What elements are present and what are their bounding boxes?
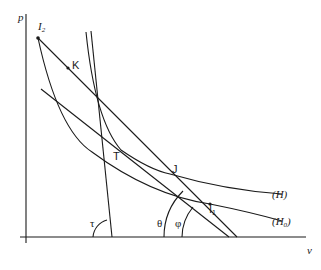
point-k (66, 66, 69, 69)
tau-line (91, 31, 112, 237)
point-k-label: K (72, 59, 80, 71)
angle-tau-label: τ (90, 217, 95, 229)
hugoniot-curve-h (86, 32, 282, 194)
phi-arc (182, 207, 193, 237)
angle-theta-label: θ (157, 217, 162, 229)
point-i2 (36, 36, 40, 40)
p-axis-label: p (17, 11, 24, 23)
point-t-label: T (113, 150, 120, 162)
rayleigh-line-t-i1 (41, 89, 229, 237)
point-i2-label: I2 (37, 20, 46, 34)
curve-h0-label: (H0) (272, 215, 291, 229)
v-axis-label: v (307, 244, 312, 256)
point-j-label: J (172, 163, 178, 175)
curve-h-label: (H) (272, 188, 288, 201)
pv-diagram: p v I2 K T J I1 (H) (H0) τ θ φ (0, 0, 321, 270)
angle-phi-label: φ (175, 217, 181, 229)
tau-arc (93, 220, 107, 237)
